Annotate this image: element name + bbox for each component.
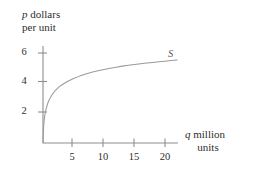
y-tick-label-4: 4 — [16, 76, 32, 87]
y-axis-label-line-2: per unit — [22, 21, 60, 34]
curve-label-s: S — [168, 48, 173, 59]
x-tick-label-20: 20 — [157, 152, 173, 163]
supply-curve-figure: p dollars per unit q million units 2 4 6… — [0, 0, 253, 175]
supply-curve-path — [43, 60, 177, 143]
y-tick-label-6: 6 — [16, 47, 32, 58]
x-axis-label-line-1: q million — [185, 128, 225, 141]
y-tick-label-2: 2 — [16, 106, 32, 117]
x-tick-label-5: 5 — [64, 152, 80, 163]
x-tick-label-10: 10 — [95, 152, 111, 163]
x-axis-label-line-2: units — [185, 141, 225, 154]
y-axis-label: p dollars per unit — [22, 8, 60, 34]
y-axis-label-units-1: dollars — [28, 8, 61, 20]
y-axis-label-line-1: p dollars — [22, 8, 60, 21]
x-axis-label: q million units — [185, 128, 225, 154]
x-tick-label-15: 15 — [126, 152, 142, 163]
x-axis-label-units-1: million — [191, 128, 226, 140]
